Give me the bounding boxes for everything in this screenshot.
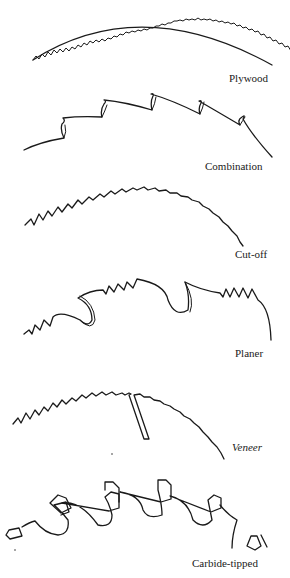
- carbide-tipped-label: Carbide-tipped: [192, 558, 258, 569]
- planer-label: Planer: [235, 348, 263, 359]
- combination-label: Combination: [205, 161, 262, 172]
- veneer-label: Veneer: [232, 442, 262, 453]
- scan-fleck: [111, 453, 113, 455]
- combination-blade-icon: [24, 94, 272, 157]
- carbide-tipped-blade-icon: [6, 480, 267, 550]
- cut-off-label: Cut-off: [235, 249, 267, 260]
- saw-blade-figure: Plywood Combination Cut-off Planer Venee…: [0, 0, 290, 578]
- plywood-label: Plywood: [229, 73, 268, 84]
- plywood-blade-icon: [33, 18, 290, 65]
- plywood-blade-drawing: [0, 0, 290, 578]
- planer-blade-icon: [24, 279, 271, 340]
- scan-fleck: [14, 549, 16, 551]
- veneer-blade-icon: [13, 392, 224, 459]
- cut-off-blade-icon: [25, 187, 243, 246]
